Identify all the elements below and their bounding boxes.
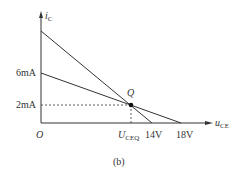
- tick-6ma: 6mA: [16, 68, 36, 78]
- y-axis-label: iC: [45, 11, 52, 24]
- origin-label: O: [36, 130, 43, 140]
- dc-load-line: [41, 31, 152, 123]
- tick-uceq: UCEQ: [118, 130, 139, 143]
- figure-caption: (b): [113, 157, 125, 167]
- tick-2ma: 2mA: [16, 100, 36, 110]
- y-axis-arrow-icon: [39, 11, 43, 18]
- x-axis-arrow-icon: [205, 121, 213, 125]
- tick-14v: 14V: [145, 130, 162, 140]
- load-line-diagram: [0, 0, 239, 176]
- tick-18v: 18V: [176, 130, 193, 140]
- x-axis-label: uCE: [215, 118, 229, 131]
- q-point: [129, 103, 134, 108]
- q-label: Q: [127, 88, 134, 98]
- ac-load-line: [41, 73, 181, 123]
